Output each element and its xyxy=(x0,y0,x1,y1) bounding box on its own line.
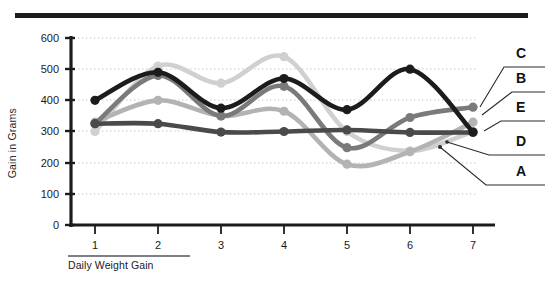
data-point-c-3[interactable] xyxy=(216,104,225,113)
legend: C B E D A xyxy=(516,45,526,179)
data-point-b-5[interactable] xyxy=(342,143,351,152)
data-point-d-1[interactable] xyxy=(90,119,99,128)
data-point-d-4[interactable] xyxy=(279,127,288,136)
data-point-c-1[interactable] xyxy=(90,96,99,105)
x-tick-label-4: 4 xyxy=(281,239,287,251)
data-point-d-6[interactable] xyxy=(405,128,414,137)
data-point-b-6[interactable] xyxy=(405,113,414,122)
y-tick-label-200: 200 xyxy=(41,157,59,169)
y-tick-label-400: 400 xyxy=(41,94,59,106)
legend-label-a[interactable]: A xyxy=(516,163,526,179)
series-d[interactable] xyxy=(90,119,477,137)
line-chart: 600 500 400 300 200 100 0 1 2 3 4 xyxy=(0,0,545,282)
data-point-d-3[interactable] xyxy=(216,128,225,137)
y-tick-label-300: 300 xyxy=(41,125,59,137)
legend-label-d[interactable]: D xyxy=(516,133,526,149)
data-point-d-2[interactable] xyxy=(153,119,162,128)
leader-line-c xyxy=(480,67,545,107)
x-tick-label-6: 6 xyxy=(407,239,413,251)
data-point-e-6[interactable] xyxy=(405,147,414,156)
data-point-e-5[interactable] xyxy=(342,160,351,169)
data-point-c-6[interactable] xyxy=(405,65,414,74)
data-point-a-4[interactable] xyxy=(279,52,288,61)
x-tick-label-3: 3 xyxy=(218,239,224,251)
leader-line-b xyxy=(482,92,545,115)
x-axis: 1 2 3 4 5 6 7 xyxy=(68,225,495,256)
y-tick-label-600: 600 xyxy=(41,32,59,44)
legend-leaders xyxy=(438,67,545,185)
y-tick-label-0: 0 xyxy=(53,219,59,231)
legend-label-b[interactable]: B xyxy=(516,70,526,86)
leader-dot-d xyxy=(445,140,449,144)
x-tick-label-5: 5 xyxy=(344,239,350,251)
data-point-a-3[interactable] xyxy=(216,79,225,88)
leader-line-a xyxy=(440,147,545,185)
data-point-c-4[interactable] xyxy=(279,74,288,83)
y-tick-label-500: 500 xyxy=(41,63,59,75)
data-point-c-5[interactable] xyxy=(342,105,351,114)
data-point-e-4[interactable] xyxy=(279,107,288,116)
y-axis: 600 500 400 300 200 100 0 xyxy=(41,32,75,231)
data-point-d-5[interactable] xyxy=(342,125,351,134)
x-tick-label-2: 2 xyxy=(155,239,161,251)
x-tick-label-1: 1 xyxy=(92,239,98,251)
leader-line-d xyxy=(447,142,545,155)
data-point-c-7[interactable] xyxy=(468,128,477,137)
legend-label-e[interactable]: E xyxy=(516,99,525,115)
data-point-c-2[interactable] xyxy=(153,68,162,77)
leader-line-e xyxy=(484,121,545,131)
x-tick-label-7: 7 xyxy=(470,239,476,251)
leader-dot-a xyxy=(438,145,442,149)
series-layer xyxy=(90,52,477,169)
chart-page: Gain in Grams Daily Weight Gain xyxy=(0,0,545,282)
data-point-b-7[interactable] xyxy=(468,103,477,112)
legend-label-c[interactable]: C xyxy=(516,45,526,61)
y-tick-label-100: 100 xyxy=(41,188,59,200)
data-point-e-2[interactable] xyxy=(153,96,162,105)
